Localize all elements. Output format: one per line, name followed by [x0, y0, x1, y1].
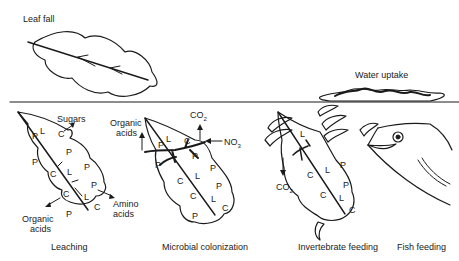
letter-p: P [32, 158, 38, 167]
letter-l: L [339, 194, 344, 203]
letter-c: C [94, 203, 101, 212]
organic-acids-label-3: Organic [110, 118, 142, 128]
letter-c: C [50, 170, 57, 179]
letter-p: P [155, 161, 161, 170]
letter-p: P [210, 164, 216, 173]
letter-l: L [211, 195, 216, 204]
letter-p: P [192, 152, 198, 161]
letter-p: P [192, 212, 198, 221]
sugars-label: Sugars [57, 114, 86, 124]
letter-p: P [158, 141, 164, 150]
letter-p: P [66, 148, 72, 157]
letter-c: C [190, 192, 197, 201]
leaf-fall-label: Leaf fall [23, 14, 55, 24]
co2-label-2: CO2 [276, 182, 293, 196]
organic-acids-label-1: Organic [22, 214, 54, 224]
diagram-drawing [0, 0, 459, 261]
falling-leaf [28, 32, 157, 97]
letter-c: C [63, 190, 70, 199]
amino-acids-label: acids [113, 209, 134, 219]
organic-acids-label-2: acids [30, 224, 51, 234]
letter-p: P [216, 182, 222, 191]
water-uptake-label: Water uptake [355, 70, 408, 80]
letter-l: L [67, 168, 72, 177]
letter-l: L [195, 172, 200, 181]
floating-leaf [319, 88, 444, 101]
letter-p: P [343, 181, 349, 190]
letter-l: L [84, 193, 89, 202]
letter-c: C [307, 171, 314, 180]
letter-c: C [222, 204, 229, 213]
caption-microbial-colonization: Microbial colonization [162, 242, 248, 252]
letter-p: P [66, 210, 72, 219]
no3-label: NO3 [224, 137, 241, 151]
letter-p: P [340, 161, 346, 170]
caption-leaching: Leaching [51, 242, 88, 252]
letter-l: L [300, 130, 305, 139]
letter-p: P [84, 163, 90, 172]
letter-l: L [325, 166, 330, 175]
caption-invertebrate-feeding: Invertebrate feeding [298, 242, 378, 252]
letter-c: C [349, 206, 356, 215]
letter-p: P [32, 132, 38, 141]
caption-fish-feeding: Fish feeding [397, 242, 446, 252]
letter-l: L [166, 135, 171, 144]
letter-c: C [177, 177, 184, 186]
letter-c: C [58, 130, 65, 139]
amino-label: Amino [113, 199, 139, 209]
letter-c: C [320, 191, 327, 200]
organic-acids-label-4: acids [116, 128, 137, 138]
letter-c: C [184, 137, 191, 146]
letter-l: L [40, 127, 45, 136]
co2-label-1: CO2 [190, 110, 207, 124]
invertebrate-leaf [265, 105, 378, 240]
letter-p: P [91, 181, 97, 190]
microbial-leaf [139, 118, 234, 224]
fish-head [368, 123, 452, 205]
